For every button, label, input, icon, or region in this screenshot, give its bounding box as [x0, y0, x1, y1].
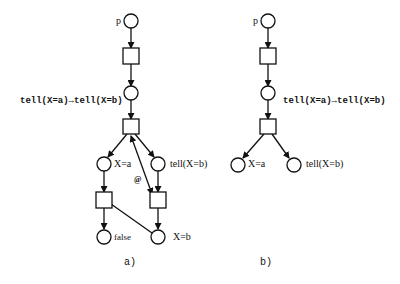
edge-t2-to-xa [108, 134, 127, 157]
edge-t3-to-xb [111, 204, 152, 233]
label-xa: X=a [248, 158, 266, 169]
diagram-a: p tell(X=a)→tell(X=b) X=a tell(X=b) @ fa… [20, 14, 207, 268]
label-at: @ [134, 175, 142, 184]
place-xa [97, 157, 111, 171]
place-tell [287, 158, 301, 172]
transition-2 [123, 119, 139, 134]
transition-4 [150, 192, 166, 208]
label-p: p [116, 15, 121, 26]
place-xa [231, 158, 245, 172]
label-p: p [253, 15, 258, 26]
place-tell [151, 157, 165, 171]
diagram-b: p tell(X=a)→tell(X=b) X=a tell(X=b) b) [231, 14, 386, 268]
place-false [97, 230, 111, 244]
edge-t2-to-tell [272, 134, 289, 158]
transition-3 [96, 192, 112, 208]
place-xb [151, 230, 165, 244]
label-condition: tell(X=a)→tell(X=b) [20, 96, 123, 106]
edge-at-bidirectional [131, 136, 152, 194]
caption-b: b) [260, 257, 272, 268]
label-false: false [114, 232, 131, 242]
transition-1 [123, 48, 139, 64]
label-tell: tell(X=b) [170, 158, 207, 170]
label-xa: X=a [114, 158, 132, 169]
transition-2 [260, 119, 276, 134]
caption-a: a) [124, 257, 136, 268]
petri-net-figure: p tell(X=a)→tell(X=b) X=a tell(X=b) @ fa… [0, 0, 400, 284]
place-condition [124, 86, 138, 100]
place-p [124, 14, 138, 28]
label-tell: tell(X=b) [306, 158, 343, 170]
edge-t2-to-xa [243, 134, 264, 158]
transition-1 [260, 48, 276, 64]
label-condition: tell(X=a)→tell(X=b) [283, 96, 386, 106]
place-condition [261, 86, 275, 100]
place-p [261, 14, 275, 28]
label-xb: X=b [173, 231, 191, 242]
